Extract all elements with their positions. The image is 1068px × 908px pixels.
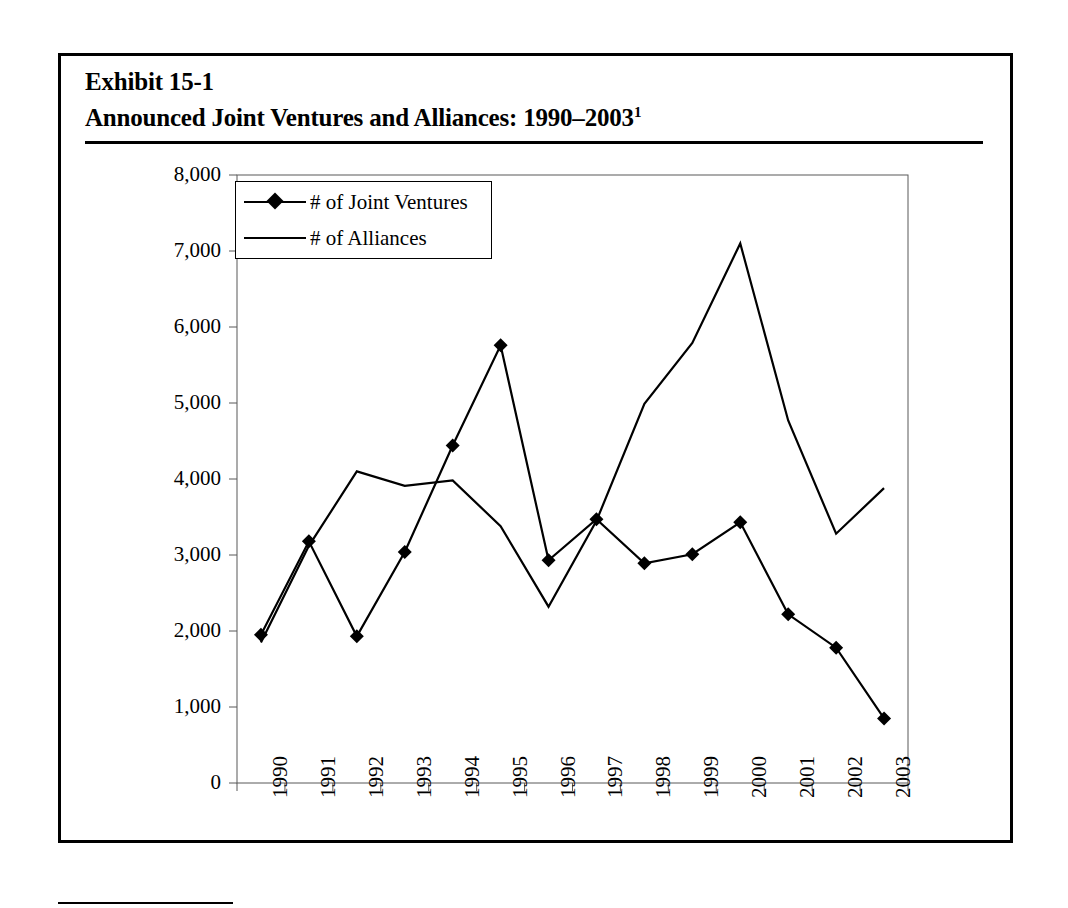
y-axis-ticks (229, 175, 237, 783)
x-axis-tick-label: 2001 (797, 756, 818, 798)
x-axis-tick-label: 1991 (318, 756, 339, 798)
y-axis-tick-label: 0 (121, 772, 221, 793)
y-axis-tick-label: 8,000 (121, 164, 221, 185)
x-axis-tick-label: 2002 (845, 756, 866, 798)
y-axis-tick-label: 1,000 (121, 696, 221, 717)
x-axis-tick-label: 1990 (270, 756, 291, 798)
x-axis-tick-label: 2003 (893, 756, 914, 798)
x-axis-tick-label: 1995 (510, 756, 531, 798)
y-axis-tick-label: 7,000 (121, 240, 221, 261)
y-axis-tick-label: 4,000 (121, 468, 221, 489)
x-axis-tick-label: 1993 (414, 756, 435, 798)
legend-item-joint-ventures: # of Joint Ventures (244, 186, 468, 218)
x-axis-tick-label: 1998 (653, 756, 674, 798)
footnote-divider (58, 902, 233, 904)
legend-line-icon (244, 237, 306, 239)
x-axis-tick-label: 1992 (366, 756, 387, 798)
x-axis-tick-label: 1996 (558, 756, 579, 798)
legend-label-alliances: # of Alliances (310, 228, 427, 249)
y-axis-tick-label: 3,000 (121, 544, 221, 565)
diamond-marker-icon (267, 193, 284, 210)
exhibit-frame: Exhibit 15-1 Announced Joint Ventures an… (58, 53, 1013, 843)
legend-swatch-alliances (244, 228, 306, 248)
y-axis-tick-label: 6,000 (121, 316, 221, 337)
chart-legend: # of Joint Ventures # of Alliances (235, 181, 492, 259)
x-axis-tick-label: 1997 (605, 756, 626, 798)
y-axis-tick-label: 5,000 (121, 392, 221, 413)
x-axis-tick-label: 1994 (462, 756, 483, 798)
x-axis-tick-label: 2000 (749, 756, 770, 798)
x-axis-tick-label: 1999 (701, 756, 722, 798)
legend-item-alliances: # of Alliances (244, 222, 427, 254)
legend-label-joint-ventures: # of Joint Ventures (310, 192, 468, 213)
plot-frame (237, 175, 908, 783)
chart-plot-region: 8,0007,0006,0005,0004,0003,0002,0001,000… (61, 56, 1016, 846)
y-axis-tick-label: 2,000 (121, 620, 221, 641)
legend-swatch-joint-ventures (244, 192, 306, 212)
